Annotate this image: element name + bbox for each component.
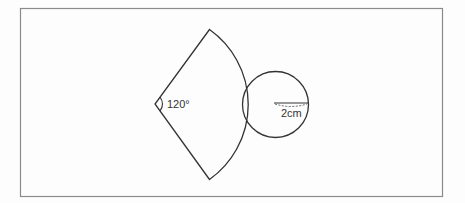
diagram-frame <box>21 9 443 197</box>
radius-label: 2cm <box>281 107 302 119</box>
angle-marker-arc <box>160 97 163 111</box>
cone-net-diagram: 120° 2cm <box>0 0 465 203</box>
diagram-canvas: 120° 2cm <box>0 0 465 203</box>
angle-label: 120° <box>167 98 190 110</box>
